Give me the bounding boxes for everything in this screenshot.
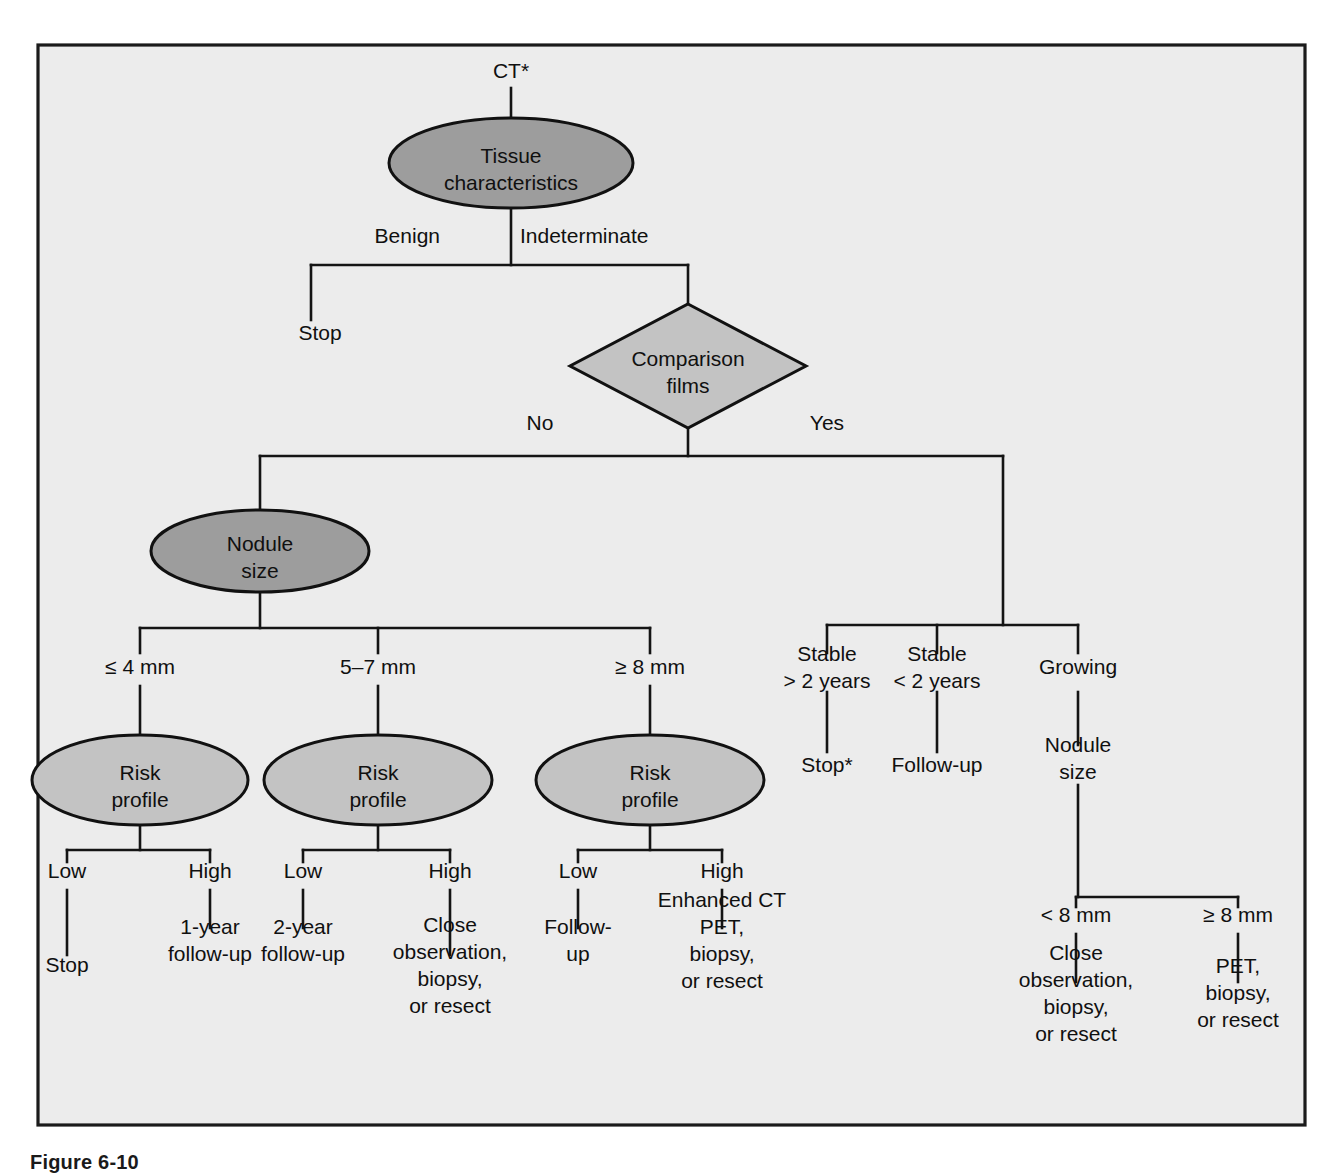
branch-label-no: No (527, 411, 554, 434)
branch-label-low1: Low (48, 859, 87, 882)
branch-label-low3: Low (559, 859, 598, 882)
branch-label-benign: Benign (375, 224, 440, 247)
branch-label-low2: Low (284, 859, 323, 882)
branch-label-high1: High (188, 859, 231, 882)
branch-label-lt8mm: < 8 mm (1041, 903, 1112, 926)
branch-label-high3: High (700, 859, 743, 882)
figure-caption: Figure 6-10 (30, 1151, 139, 1174)
node-nodule_size: Nodulesize (151, 510, 369, 592)
terminal-stop_star: Stop* (801, 753, 852, 776)
terminal-stop_benign: Stop (298, 321, 341, 344)
branch-label-ge8mm: ≥ 8 mm (615, 655, 685, 678)
terminal-growing: Growing (1039, 655, 1117, 678)
terminal-stop_low1: Stop (45, 953, 88, 976)
branch-label-indeterminate: Indeterminate (520, 224, 648, 247)
branch-label-ge8mm_grow: ≥ 8 mm (1203, 903, 1273, 926)
branch-label-mm5to7: 5–7 mm (340, 655, 416, 678)
branch-label-high2: High (428, 859, 471, 882)
entry-label: CT* (493, 59, 529, 82)
branch-label-yes: Yes (810, 411, 844, 434)
node-risk1: Riskprofile (32, 735, 248, 825)
node-risk2: Riskprofile (264, 735, 492, 825)
terminal-followup_stable: Follow-up (891, 753, 982, 776)
node-tissue: Tissuecharacteristics (389, 118, 633, 208)
node-risk3: Riskprofile (536, 735, 764, 825)
branch-label-le4mm: ≤ 4 mm (105, 655, 175, 678)
